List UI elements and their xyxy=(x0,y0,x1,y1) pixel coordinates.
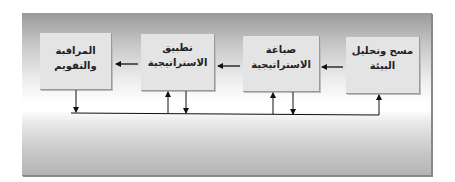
arrows-layer xyxy=(0,0,455,182)
feedback-line xyxy=(71,113,379,115)
